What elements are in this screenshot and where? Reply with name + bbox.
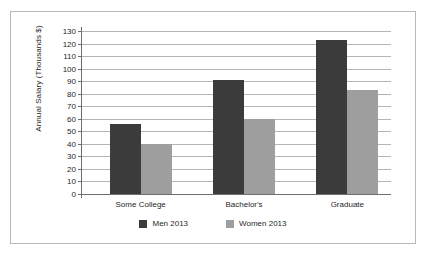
y-tick-label: 110 <box>63 52 76 61</box>
y-axis-title: Annual Salary (Thousands $) <box>34 4 43 154</box>
y-tick-label: 60 <box>67 114 76 123</box>
x-axis-line <box>81 194 391 195</box>
y-tick-label: 0 <box>72 190 76 199</box>
y-tick-label: 80 <box>67 89 76 98</box>
bar <box>244 119 275 194</box>
chart-figure: Annual Salary (Thousands $) 010203040506… <box>10 11 416 244</box>
y-tick-label: 10 <box>67 177 76 186</box>
y-tick-label: 120 <box>63 39 76 48</box>
y-tick-label: 100 <box>63 64 76 73</box>
bar <box>213 80 244 194</box>
x-tick-label: Graduate <box>331 200 364 209</box>
bar <box>347 90 378 194</box>
y-tick-label: 30 <box>67 152 76 161</box>
bar <box>141 144 172 194</box>
y-tick-label: 50 <box>67 127 76 136</box>
y-tick-label: 90 <box>67 77 76 86</box>
x-tick-label: Bachelor's <box>225 200 262 209</box>
chart-legend: Men 2013Women 2013 <box>11 219 415 228</box>
y-axis-line <box>81 27 82 198</box>
y-tick-label: 70 <box>67 102 76 111</box>
y-tick-label: 40 <box>67 139 76 148</box>
gridline <box>81 31 391 32</box>
legend-item[interactable]: Men 2013 <box>139 219 188 228</box>
y-tick-label: 130 <box>63 27 76 36</box>
legend-label: Men 2013 <box>152 219 188 228</box>
legend-swatch-icon <box>226 220 234 228</box>
bar <box>110 124 141 194</box>
legend-label: Women 2013 <box>239 219 286 228</box>
legend-item[interactable]: Women 2013 <box>226 219 286 228</box>
y-tick-label: 20 <box>67 164 76 173</box>
plot-area: 0102030405060708090100110120130 Some Col… <box>81 31 391 194</box>
legend-swatch-icon <box>139 220 147 228</box>
bar <box>316 40 347 194</box>
x-tick-label: Some College <box>116 200 166 209</box>
